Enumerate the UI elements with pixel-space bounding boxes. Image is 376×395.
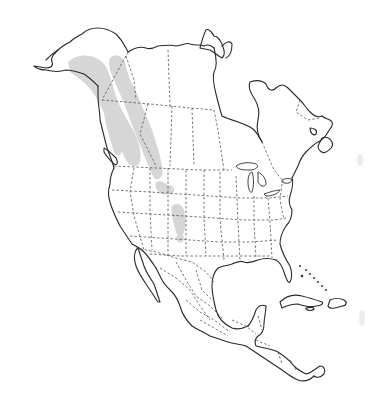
map-container: North America [0, 0, 376, 395]
scan-artifacts [357, 154, 365, 326]
bahamas [299, 265, 327, 291]
coastline [34, 28, 346, 381]
great-lakes [236, 163, 292, 196]
north-america-map [0, 0, 376, 395]
